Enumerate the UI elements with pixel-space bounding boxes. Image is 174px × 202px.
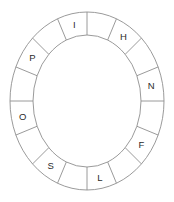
segment-letter-s: S — [47, 160, 53, 171]
segment-letter-i: I — [73, 19, 76, 30]
segment-letter-h: H — [120, 31, 127, 42]
wheel-diagram: HNFLSOPI — [0, 0, 174, 202]
letter-ring-wheel: HNFLSOPI — [0, 0, 174, 202]
segment-letter-p: P — [29, 52, 35, 63]
segment-letter-l: L — [97, 172, 102, 183]
segment-letter-o: O — [19, 111, 26, 122]
segment-letter-f: F — [139, 139, 145, 150]
segment-letter-n: N — [148, 80, 155, 91]
ring-inner-edge — [33, 35, 141, 167]
